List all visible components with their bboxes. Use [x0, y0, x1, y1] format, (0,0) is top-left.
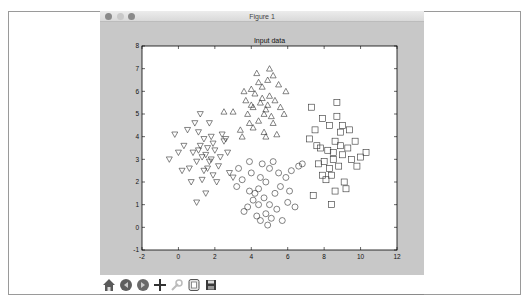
subplots-button[interactable] — [186, 277, 201, 292]
figure-canvas: Input data -2024681012-1012345678 — [100, 22, 424, 275]
figure-window: Figure 1 Input data -2024681012-10123456… — [100, 11, 424, 295]
home-button[interactable] — [101, 277, 116, 292]
navigation-toolbar — [100, 275, 424, 295]
x-tick-label: 0 — [177, 253, 181, 260]
y-tick-label: 8 — [135, 42, 139, 49]
scatter-plot: Input data -2024681012-1012345678 — [100, 22, 424, 275]
y-tick-label: 6 — [135, 88, 139, 95]
y-tick-label: 7 — [135, 65, 139, 72]
save-button[interactable] — [203, 277, 218, 292]
forward-button[interactable] — [135, 277, 150, 292]
window-title: Figure 1 — [100, 11, 424, 22]
y-tick-label: 0 — [135, 224, 139, 231]
pan-icon — [153, 278, 167, 292]
y-tick-label: 5 — [135, 110, 139, 117]
axes-background — [142, 46, 397, 250]
y-tick-label: 3 — [135, 156, 139, 163]
chart-title: Input data — [254, 37, 285, 45]
back-icon — [119, 278, 133, 292]
pan-button[interactable] — [152, 277, 167, 292]
y-tick-label: 4 — [135, 133, 139, 140]
x-tick-label: 4 — [249, 253, 253, 260]
save-icon — [204, 278, 218, 292]
forward-icon — [136, 278, 150, 292]
y-tick-label: 1 — [135, 201, 139, 208]
y-tick-label: 2 — [135, 178, 139, 185]
zoom-rect-icon — [170, 278, 184, 292]
title-bar[interactable]: Figure 1 — [100, 11, 424, 22]
zoom-rect-button[interactable] — [169, 277, 184, 292]
x-tick-label: 12 — [393, 253, 401, 260]
y-tick-label: -1 — [133, 246, 139, 253]
subplots-icon — [187, 278, 201, 292]
x-tick-label: 8 — [322, 253, 326, 260]
x-tick-label: 2 — [213, 253, 217, 260]
back-button[interactable] — [118, 277, 133, 292]
x-tick-label: 10 — [357, 253, 365, 260]
home-icon — [102, 278, 116, 292]
x-tick-label: 6 — [286, 253, 290, 260]
x-tick-label: -2 — [139, 253, 145, 260]
